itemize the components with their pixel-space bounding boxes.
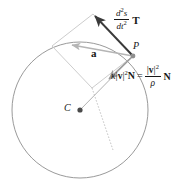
figure-canvas: d2s dt2 T κ|v|2N= |v|2 ρ N a P C xyxy=(0,0,195,187)
numerator-variable: s xyxy=(124,8,128,18)
unit-normal-vector-symbol: N xyxy=(128,70,135,81)
second-derivative-fraction: d2s dt2 xyxy=(114,7,129,32)
unit-tangent-vector-symbol: T xyxy=(132,14,139,26)
radius-extension-line xyxy=(92,88,113,150)
frac-magnitude-exponent: 2 xyxy=(156,63,159,70)
point-p-marker xyxy=(131,54,136,59)
denominator-exponent: 2 xyxy=(124,19,127,26)
point-c-label: C xyxy=(64,103,71,113)
rho-fraction: |v|2 ρ xyxy=(145,63,161,88)
point-c-marker xyxy=(77,107,82,112)
unit-normal-vector-symbol-after: N xyxy=(163,71,170,82)
vector-diagram-svg xyxy=(0,0,195,187)
denominator-dt: dt xyxy=(117,21,124,31)
tangential-component-label: d2s dt2 T xyxy=(114,8,140,33)
normal-component-label: κ|v|2N= |v|2 ρ N xyxy=(111,64,171,89)
rho-fraction-numerator: |v|2 xyxy=(145,63,161,76)
radius-of-curvature-rho: ρ xyxy=(145,78,161,88)
point-p-label: P xyxy=(133,41,139,51)
equals-sign: = xyxy=(137,70,143,81)
fraction-denominator: dt2 xyxy=(114,20,129,31)
fraction-numerator: d2s xyxy=(114,7,129,18)
acceleration-vector-label: a xyxy=(91,48,97,59)
